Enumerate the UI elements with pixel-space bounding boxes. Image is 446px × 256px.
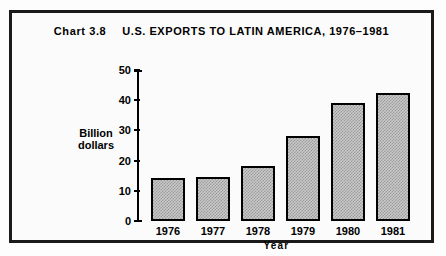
bar-1981 bbox=[376, 93, 410, 221]
x-axis-label-1980: 1980 bbox=[331, 225, 365, 237]
bar-1979 bbox=[286, 136, 320, 221]
y-axis-tick bbox=[134, 69, 140, 71]
y-axis-tick-label: 20 bbox=[119, 155, 131, 167]
plot-area: 01020304050 bbox=[137, 70, 416, 221]
y-axis-tick bbox=[134, 160, 140, 162]
y-axis-tick bbox=[134, 129, 140, 131]
x-axis-label-1981: 1981 bbox=[376, 225, 410, 237]
chart-frame-border: Chart 3.8U.S. EXPORTS TO LATIN AMERICA, … bbox=[9, 10, 434, 243]
y-axis-tick bbox=[134, 220, 140, 222]
bar-1978 bbox=[241, 166, 275, 221]
y-axis-tick bbox=[134, 99, 140, 101]
chart-number-label: Chart 3.8 bbox=[54, 25, 106, 37]
chart-title: Chart 3.8U.S. EXPORTS TO LATIN AMERICA, … bbox=[12, 25, 431, 37]
y-axis-title: Billion dollars bbox=[67, 127, 125, 151]
y-axis-tick-label: 30 bbox=[119, 124, 131, 136]
y-axis-title-line-2: dollars bbox=[67, 139, 125, 151]
y-axis-tick-label: 10 bbox=[119, 185, 131, 197]
y-axis-tick-label: 50 bbox=[119, 64, 131, 76]
bar-1977 bbox=[196, 177, 230, 221]
bar-1976 bbox=[151, 178, 185, 221]
x-axis-title: Year bbox=[137, 240, 416, 251]
x-axis-label-1979: 1979 bbox=[286, 225, 320, 237]
y-axis-line bbox=[137, 70, 139, 222]
bar-1980 bbox=[331, 103, 365, 221]
x-axis-label-1978: 1978 bbox=[241, 225, 275, 237]
chart-title-text: U.S. EXPORTS TO LATIN AMERICA, 1976–1981 bbox=[122, 25, 389, 37]
screenshot-root: Chart 3.8U.S. EXPORTS TO LATIN AMERICA, … bbox=[0, 0, 446, 256]
x-axis-label-1976: 1976 bbox=[151, 225, 185, 237]
y-axis-tick bbox=[134, 190, 140, 192]
y-axis-title-line-1: Billion bbox=[67, 127, 125, 139]
y-axis-tick-label: 40 bbox=[119, 94, 131, 106]
y-axis-tick-label: 0 bbox=[125, 215, 131, 227]
x-axis-label-1977: 1977 bbox=[196, 225, 230, 237]
